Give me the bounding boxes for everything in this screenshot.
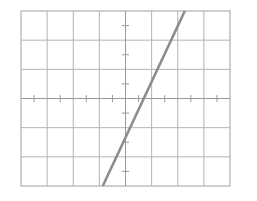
graph-canvas xyxy=(0,0,257,201)
coordinate-grid-line-graph xyxy=(0,0,257,201)
figure-background xyxy=(0,0,257,201)
